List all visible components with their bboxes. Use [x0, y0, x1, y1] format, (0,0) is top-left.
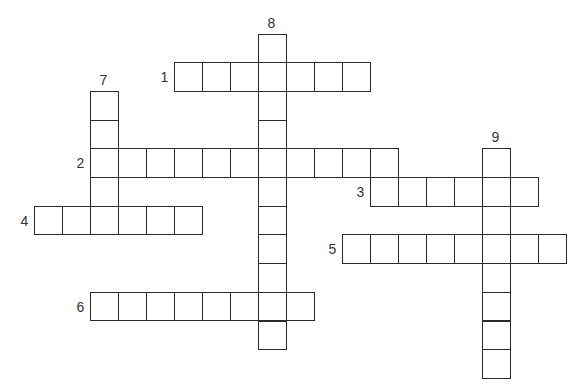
- crossword-cell[interactable]: [146, 292, 175, 322]
- crossword-grid: 123456789: [0, 0, 577, 384]
- crossword-cell[interactable]: [90, 206, 119, 236]
- crossword-cell[interactable]: [174, 206, 203, 236]
- clue-number-9: 9: [492, 130, 500, 144]
- crossword-cell[interactable]: [258, 206, 287, 236]
- crossword-cell[interactable]: [118, 148, 147, 178]
- crossword-cell[interactable]: [202, 62, 231, 92]
- crossword-cell[interactable]: [90, 177, 119, 207]
- crossword-cell[interactable]: [482, 206, 511, 236]
- crossword-cell[interactable]: [482, 349, 511, 379]
- crossword-cell[interactable]: [370, 234, 399, 264]
- crossword-cell[interactable]: [342, 148, 371, 178]
- clue-number-7: 7: [100, 73, 108, 87]
- crossword-cell[interactable]: [258, 263, 287, 293]
- crossword-cell[interactable]: [314, 62, 343, 92]
- crossword-cell[interactable]: [398, 234, 427, 264]
- crossword-cell[interactable]: [174, 148, 203, 178]
- crossword-cell[interactable]: [286, 148, 315, 178]
- crossword-cell[interactable]: [258, 321, 287, 351]
- crossword-cell[interactable]: [118, 292, 147, 322]
- crossword-cell[interactable]: [482, 148, 511, 178]
- crossword-cell[interactable]: [258, 62, 287, 92]
- crossword-cell[interactable]: [454, 177, 483, 207]
- crossword-cell[interactable]: [118, 206, 147, 236]
- crossword-cell[interactable]: [90, 292, 119, 322]
- crossword-cell[interactable]: [258, 91, 287, 121]
- crossword-cell[interactable]: [510, 234, 539, 264]
- crossword-cell[interactable]: [482, 234, 511, 264]
- crossword-cell[interactable]: [426, 177, 455, 207]
- crossword-cell[interactable]: [230, 62, 259, 92]
- crossword-cell[interactable]: [34, 206, 63, 236]
- crossword-cell[interactable]: [538, 234, 567, 264]
- clue-number-3: 3: [357, 185, 365, 199]
- crossword-cell[interactable]: [258, 177, 287, 207]
- clue-number-5: 5: [329, 242, 337, 256]
- crossword-cell[interactable]: [286, 292, 315, 322]
- clue-number-4: 4: [21, 214, 29, 228]
- crossword-cell[interactable]: [454, 234, 483, 264]
- crossword-cell[interactable]: [314, 148, 343, 178]
- crossword-cell[interactable]: [370, 148, 399, 178]
- crossword-cell[interactable]: [482, 321, 511, 351]
- crossword-cell[interactable]: [482, 292, 511, 322]
- crossword-cell[interactable]: [90, 120, 119, 150]
- clue-number-2: 2: [77, 156, 85, 170]
- crossword-cell[interactable]: [202, 292, 231, 322]
- crossword-cell[interactable]: [258, 34, 287, 64]
- crossword-cell[interactable]: [258, 292, 287, 322]
- clue-number-8: 8: [268, 16, 276, 30]
- crossword-cell[interactable]: [62, 206, 91, 236]
- crossword-cell[interactable]: [258, 120, 287, 150]
- crossword-cell[interactable]: [510, 177, 539, 207]
- crossword-cell[interactable]: [258, 148, 287, 178]
- crossword-cell[interactable]: [342, 234, 371, 264]
- crossword-cell[interactable]: [174, 292, 203, 322]
- crossword-cell[interactable]: [230, 292, 259, 322]
- crossword-cell[interactable]: [398, 177, 427, 207]
- crossword-cell[interactable]: [202, 148, 231, 178]
- crossword-cell[interactable]: [482, 263, 511, 293]
- crossword-cell[interactable]: [90, 148, 119, 178]
- crossword-cell[interactable]: [370, 177, 399, 207]
- crossword-cell[interactable]: [146, 148, 175, 178]
- crossword-cell[interactable]: [342, 62, 371, 92]
- clue-number-6: 6: [77, 300, 85, 314]
- crossword-cell[interactable]: [174, 62, 203, 92]
- crossword-cell[interactable]: [90, 91, 119, 121]
- crossword-cell[interactable]: [286, 62, 315, 92]
- crossword-cell[interactable]: [230, 148, 259, 178]
- crossword-cell[interactable]: [258, 234, 287, 264]
- clue-number-1: 1: [161, 70, 169, 84]
- crossword-cell[interactable]: [146, 206, 175, 236]
- crossword-cell[interactable]: [482, 177, 511, 207]
- crossword-cell[interactable]: [426, 234, 455, 264]
